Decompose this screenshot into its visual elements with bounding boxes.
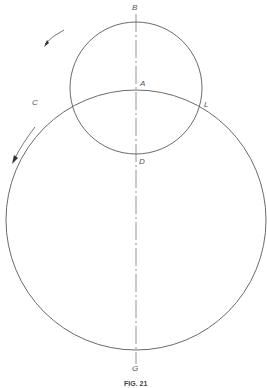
label-c: C — [32, 98, 38, 107]
rotation-arrow-large-icon — [12, 127, 35, 164]
label-b: B — [132, 3, 138, 12]
rotation-arrow-small-icon — [44, 30, 64, 47]
label-l: L — [204, 100, 208, 109]
figure-caption: FIG. 21 — [124, 380, 147, 387]
label-d: D — [139, 157, 145, 166]
label-a: A — [139, 79, 145, 88]
figure-canvas: B A C L D G FIG. 21 — [0, 0, 267, 388]
label-g: G — [132, 364, 138, 373]
